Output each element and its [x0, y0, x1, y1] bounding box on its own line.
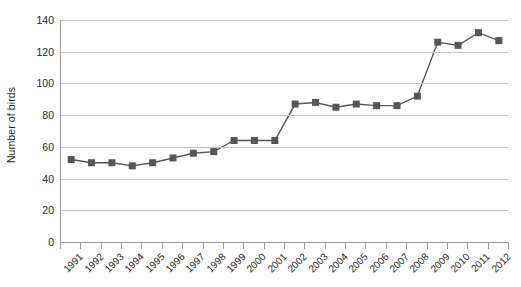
gridline — [61, 115, 508, 116]
x-tick-mark — [223, 242, 224, 249]
data-point-marker — [149, 159, 156, 166]
data-point-marker — [88, 159, 95, 166]
x-axis-ticks — [60, 242, 508, 249]
y-axis-title-text: Number of birds — [5, 87, 17, 163]
gridline — [61, 147, 508, 148]
x-tick-mark — [284, 242, 285, 249]
data-point-marker — [332, 104, 339, 111]
data-point-marker — [129, 162, 136, 169]
x-tick-mark — [508, 242, 509, 249]
data-point-marker — [353, 101, 360, 108]
data-point-marker — [271, 137, 278, 144]
x-tick-mark — [264, 242, 265, 249]
data-point-marker — [108, 159, 115, 166]
data-point-marker — [434, 39, 441, 46]
data-point-marker — [475, 29, 482, 36]
plot-area — [60, 20, 508, 242]
x-tick-mark — [345, 242, 346, 249]
data-point-marker — [495, 37, 502, 44]
x-tick-mark — [365, 242, 366, 249]
data-point-marker — [312, 99, 319, 106]
x-tick-mark — [427, 242, 428, 249]
bird-count-line-chart: Number of birds 020406080100120140 19911… — [0, 0, 521, 287]
data-point-marker — [394, 102, 401, 109]
x-tick-mark — [80, 242, 81, 249]
y-tick-label: 100 — [36, 77, 54, 89]
gridline — [61, 83, 508, 84]
x-tick-mark — [447, 242, 448, 249]
data-point-marker — [292, 101, 299, 108]
data-point-marker — [373, 102, 380, 109]
x-tick-mark — [325, 242, 326, 249]
data-point-marker — [231, 137, 238, 144]
series-line-birds — [61, 20, 509, 242]
x-tick-mark — [203, 242, 204, 249]
data-point-marker — [414, 93, 421, 100]
data-point-marker — [68, 156, 75, 163]
gridline — [61, 52, 508, 53]
x-tick-mark — [60, 242, 61, 249]
y-tick-label: 40 — [42, 173, 54, 185]
y-tick-label: 0 — [48, 236, 54, 248]
y-tick-label: 140 — [36, 14, 54, 26]
data-point-marker — [170, 154, 177, 161]
x-tick-mark — [386, 242, 387, 249]
data-point-marker — [455, 42, 462, 49]
y-tick-label: 80 — [42, 109, 54, 121]
x-tick-mark — [141, 242, 142, 249]
y-axis-title: Number of birds — [0, 0, 22, 250]
x-axis-tick-labels: 1991199219931994199519961997199819992000… — [60, 249, 508, 287]
gridline — [61, 20, 508, 21]
x-tick-mark — [406, 242, 407, 249]
data-point-marker — [251, 137, 258, 144]
x-tick-mark — [101, 242, 102, 249]
x-tick-mark — [467, 242, 468, 249]
gridline — [61, 179, 508, 180]
x-tick-mark — [182, 242, 183, 249]
y-axis-tick-labels: 020406080100120140 — [22, 0, 58, 287]
data-point-marker — [210, 148, 217, 155]
gridline — [61, 210, 508, 211]
data-point-marker — [190, 150, 197, 157]
y-tick-label: 60 — [42, 141, 54, 153]
y-tick-label: 120 — [36, 46, 54, 58]
x-tick-mark — [121, 242, 122, 249]
x-tick-mark — [304, 242, 305, 249]
y-tick-label: 20 — [42, 204, 54, 216]
x-tick-mark — [488, 242, 489, 249]
x-tick-mark — [162, 242, 163, 249]
x-tick-mark — [243, 242, 244, 249]
